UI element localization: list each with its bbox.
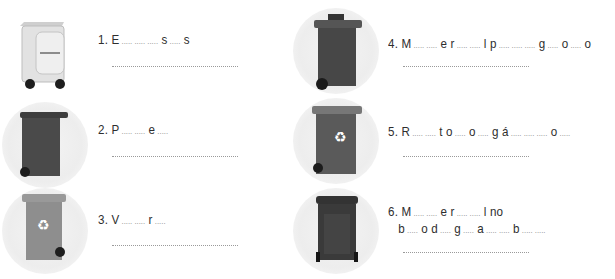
answer-line-3[interactable] <box>112 245 238 246</box>
blank: ..... ..... ..... <box>119 36 158 46</box>
word-puzzle-4: 4. M ..... ..... e r ..... ..... l p ...… <box>388 36 591 51</box>
blank: ..... <box>167 36 180 46</box>
blank: ..... <box>453 128 466 138</box>
item-number: 4. <box>388 36 398 51</box>
letter: V <box>111 212 119 227</box>
letter: e r <box>441 36 455 51</box>
blank: ..... ..... <box>455 40 481 50</box>
item-number: 5. <box>388 124 398 139</box>
item-number: 1. <box>98 32 108 47</box>
blank: ..... <box>557 128 570 138</box>
item-number: 6. <box>388 204 398 219</box>
letter: R <box>401 124 410 139</box>
letter: o d <box>421 221 438 236</box>
letter: E <box>111 32 119 47</box>
black-bin-icon <box>316 194 358 264</box>
grey-recycling-bin-icon: ♻ <box>22 192 66 264</box>
letter: t o <box>439 124 452 139</box>
blank: ..... <box>438 225 451 235</box>
blank: ..... ..... ..... <box>497 40 536 50</box>
blank: ..... ..... <box>119 216 145 226</box>
item-number: 2. <box>98 122 108 137</box>
item-number: 3. <box>98 212 108 227</box>
blank: ..... <box>461 225 474 235</box>
answer-line-1[interactable] <box>112 66 238 67</box>
blank: ..... ..... <box>411 208 437 218</box>
letter: e r <box>441 204 455 219</box>
blank: ..... <box>545 40 558 50</box>
blank: ..... <box>568 40 581 50</box>
answer-line-6[interactable] <box>403 252 529 253</box>
blank: ..... ..... <box>410 128 436 138</box>
word-puzzle-6-line-2: b ..... o d ..... g ..... a ..... ..... … <box>388 221 546 236</box>
blank: ..... ..... ..... <box>509 128 548 138</box>
blank: ..... ..... <box>411 40 437 50</box>
answer-line-2[interactable] <box>112 156 238 157</box>
letter: g <box>539 36 546 51</box>
letter: M <box>401 36 411 51</box>
dark-recycling-bin-icon: ♻ <box>312 104 362 178</box>
blank: ..... <box>405 225 418 235</box>
blank: ..... <box>155 126 168 136</box>
letter: o <box>585 36 592 51</box>
blank: ..... ..... <box>484 225 510 235</box>
dark-bin-icon <box>20 110 68 180</box>
word-puzzle-3: 3. V ..... ..... r ..... <box>98 212 166 227</box>
letter: g á <box>492 124 509 139</box>
word-puzzle-2: 2. P ..... ..... e ..... <box>98 122 168 137</box>
svg-text:♻: ♻ <box>334 129 347 145</box>
word-puzzle-1: 1. E ..... ..... ..... s ..... s <box>98 32 190 47</box>
answer-line-4[interactable] <box>403 66 529 67</box>
letter: o <box>469 124 476 139</box>
blank: ..... <box>153 216 166 226</box>
answer-line-5[interactable] <box>403 156 529 157</box>
letter: M <box>401 204 411 219</box>
dark-bin-with-lid-icon <box>314 12 362 92</box>
letter: b <box>398 221 405 236</box>
blank: ..... ..... <box>455 208 481 218</box>
word-puzzle-6: 6. M ..... ..... e r ..... ..... l no b … <box>388 204 546 236</box>
letter: P <box>111 122 119 137</box>
blank: ..... ..... <box>520 225 546 235</box>
blank: ..... ..... <box>119 126 145 136</box>
white-bin-icon <box>18 20 70 92</box>
blank: ..... <box>476 128 489 138</box>
letter: l p <box>484 36 497 51</box>
letter: g <box>454 221 461 236</box>
letter: s <box>184 32 190 47</box>
word-puzzle-5: 5. R ..... ..... t o ..... o ..... g á .… <box>388 124 570 139</box>
letter: l no <box>484 204 503 219</box>
svg-text:♻: ♻ <box>37 217 50 233</box>
